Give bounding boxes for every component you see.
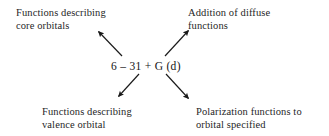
basis-set-diagram: Functions describing core orbitals Addit… (0, 0, 329, 136)
callout-valence-line-2: valence orbital (42, 118, 132, 131)
callout-valence-line-1: Functions describing (42, 105, 132, 118)
callout-core-orbitals: Functions describing core orbitals (16, 6, 106, 32)
callout-diffuse-line-2: functions (188, 19, 270, 32)
arrow-to-core (99, 32, 123, 57)
callout-diffuse-line-1: Addition of diffuse (188, 6, 270, 19)
callout-polarization-line-1: Polarization functions to (196, 105, 302, 118)
callout-polarization-functions: Polarization functions to orbital specif… (196, 105, 302, 131)
arrow-to-polarization (166, 74, 189, 99)
callout-diffuse-functions: Addition of diffuse functions (188, 6, 270, 32)
callout-polarization-line-2: orbital specified (196, 118, 302, 131)
arrow-to-diffuse (165, 31, 189, 57)
basis-set-notation: 6 – 31 + G (d) (111, 59, 181, 73)
callout-core-line-2: core orbitals (16, 19, 106, 32)
arrow-to-valence (119, 74, 140, 97)
callout-core-line-1: Functions describing (16, 6, 106, 19)
callout-valence-orbital: Functions describing valence orbital (42, 105, 132, 131)
